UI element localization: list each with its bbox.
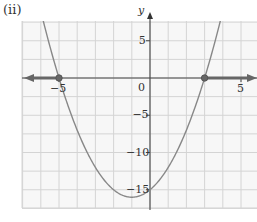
y-axis-arrow-icon — [147, 12, 153, 19]
y-tick-label: −5 — [132, 108, 148, 121]
y-tick-label: −10 — [126, 146, 149, 159]
y-axis-label: y — [138, 4, 144, 17]
origin-label: 0 — [138, 81, 145, 94]
x-tick-label: −5 — [50, 82, 66, 95]
y-tick-label: 5 — [139, 34, 146, 47]
y-tick-label: −15 — [126, 183, 149, 196]
x-tick-label: 5 — [237, 82, 244, 95]
root-point — [201, 75, 207, 81]
root-point — [56, 75, 62, 81]
